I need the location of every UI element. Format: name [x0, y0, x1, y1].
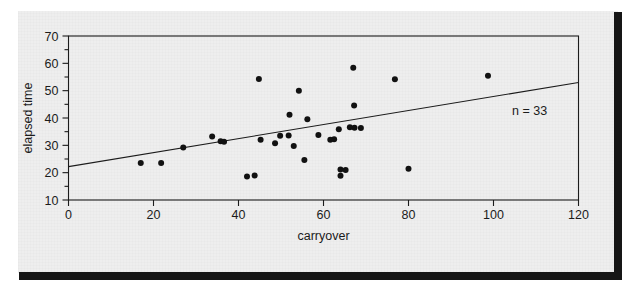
data-point: [158, 160, 164, 166]
x-tick-label: 60: [317, 208, 331, 222]
x-axis-tick-labels: 020406080100120: [65, 208, 589, 222]
x-axis-title: carryover: [297, 229, 349, 243]
chart-annotations: n = 33: [512, 104, 547, 118]
data-point: [221, 139, 227, 145]
data-point: [350, 65, 356, 71]
data-points: [138, 65, 491, 180]
data-point: [244, 173, 250, 179]
x-axis-ticks: [69, 200, 579, 206]
sample-size-annotation: n = 33: [512, 104, 547, 118]
y-tick-label: 10: [45, 194, 59, 208]
data-point: [336, 126, 342, 132]
plot-frame: [69, 36, 579, 200]
y-tick-label: 50: [45, 84, 59, 98]
data-point: [392, 76, 398, 82]
data-point: [258, 137, 264, 143]
data-point: [252, 172, 258, 178]
figure-root: 10203040506070 020406080100120 carryover…: [0, 0, 634, 291]
data-point: [286, 132, 292, 138]
scatter-plot: 10203040506070 020406080100120 carryover…: [0, 0, 634, 291]
least-squares-line: [69, 82, 579, 166]
data-point: [138, 160, 144, 166]
data-point: [296, 88, 302, 94]
data-point: [287, 112, 293, 118]
data-point: [327, 137, 333, 143]
x-tick-label: 120: [568, 208, 589, 222]
data-point: [347, 124, 353, 130]
data-point: [343, 167, 349, 173]
y-tick-label: 20: [45, 166, 59, 180]
data-point: [338, 173, 344, 179]
data-point: [277, 133, 283, 139]
data-point: [272, 140, 278, 146]
data-point: [358, 125, 364, 131]
x-tick-label: 100: [483, 208, 504, 222]
plot-frame-box: [69, 36, 579, 200]
x-tick-label: 80: [402, 208, 416, 222]
regression-line: [69, 82, 579, 166]
scatter-plot-svg: 10203040506070 020406080100120 carryover…: [0, 0, 634, 291]
data-point: [406, 166, 412, 172]
data-point: [209, 134, 215, 140]
x-tick-label: 0: [65, 208, 72, 222]
data-point: [485, 73, 491, 79]
x-tick-label: 40: [232, 208, 246, 222]
data-point: [256, 76, 262, 82]
data-point: [180, 145, 186, 151]
y-tick-label: 60: [45, 57, 59, 71]
data-point: [315, 132, 321, 138]
y-axis-tick-labels: 10203040506070: [45, 30, 59, 208]
data-point: [338, 166, 344, 172]
x-tick-label: 20: [147, 208, 161, 222]
data-point: [304, 116, 310, 122]
y-axis-title: elapsed time: [21, 83, 35, 154]
y-tick-label: 70: [45, 30, 59, 44]
data-point: [351, 102, 357, 108]
data-point: [301, 157, 307, 163]
y-tick-label: 40: [45, 112, 59, 126]
data-point: [291, 143, 297, 149]
y-axis-ticks: [63, 36, 69, 200]
y-tick-label: 30: [45, 139, 59, 153]
